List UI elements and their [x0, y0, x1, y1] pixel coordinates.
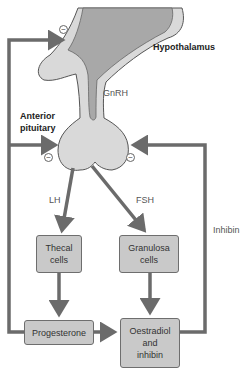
fsh-label: FSH — [136, 195, 154, 205]
hypothalamus-label: Hypothalamus — [153, 41, 215, 53]
inhibition-symbol-hypothalamus: − — [59, 25, 68, 34]
thecal-cells-box: Thecal cells — [36, 235, 82, 273]
anterior-pituitary-label: Anterior pituitary — [20, 110, 64, 134]
lh-arrow — [62, 168, 73, 230]
inhibition-symbol-pituitary-right: − — [126, 153, 135, 162]
granulosa-cells-box: Granulosa cells — [119, 235, 179, 273]
progesterone-box: Progesterone — [24, 320, 94, 345]
inhibition-symbol-pituitary-left: − — [44, 153, 53, 162]
lh-label: LH — [49, 195, 61, 205]
inhibin-label: Inhibin — [213, 225, 240, 235]
progesterone-feedback-line — [9, 40, 62, 332]
diagram-canvas — [0, 0, 247, 372]
gnrh-label: GnRH — [103, 88, 128, 98]
oestradiol-inhibin-box: Oestradiol and inhibin — [120, 318, 180, 368]
